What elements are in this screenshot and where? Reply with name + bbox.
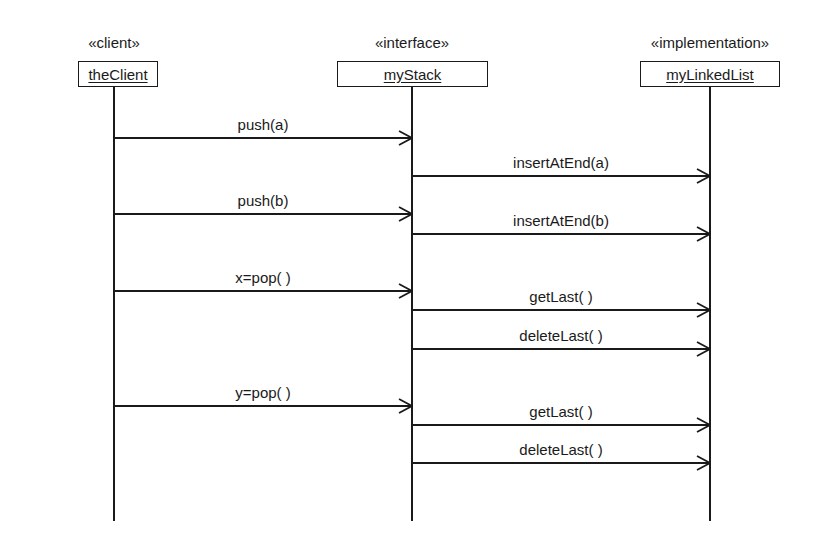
message-arrow <box>114 137 412 139</box>
participant-box: theClient <box>78 61 158 87</box>
participant-name: theClient <box>88 66 147 83</box>
lifeline <box>411 87 413 521</box>
message-arrow <box>114 213 412 215</box>
message-arrow <box>412 233 710 235</box>
participant-box: myStack <box>337 61 488 87</box>
message-label: push(b) <box>238 192 289 209</box>
message-label: getLast( ) <box>529 288 592 305</box>
message-arrow <box>114 405 412 407</box>
participant-box: myLinkedList <box>640 61 780 87</box>
message-arrow <box>412 462 710 464</box>
arrowhead-icon <box>695 455 711 471</box>
stereotype-label: «interface» <box>375 34 449 51</box>
arrowhead-icon <box>695 168 711 184</box>
message-label: insertAtEnd(a) <box>513 154 609 171</box>
arrowhead-icon <box>695 341 711 357</box>
message-arrow <box>412 424 710 426</box>
message-label: x=pop( ) <box>235 269 290 286</box>
stereotype-label: «client» <box>88 34 140 51</box>
arrowhead-icon <box>695 302 711 318</box>
message-arrow <box>412 309 710 311</box>
participant-name: myStack <box>384 66 442 83</box>
arrowhead-icon <box>397 283 413 299</box>
arrowhead-icon <box>397 130 413 146</box>
message-label: deleteLast( ) <box>519 441 602 458</box>
message-arrow <box>114 290 412 292</box>
arrowhead-icon <box>695 226 711 242</box>
arrowhead-icon <box>695 417 711 433</box>
message-arrow <box>412 348 710 350</box>
lifeline <box>113 87 115 521</box>
participant-name: myLinkedList <box>666 66 754 83</box>
arrowhead-icon <box>397 398 413 414</box>
message-label: getLast( ) <box>529 403 592 420</box>
message-label: deleteLast( ) <box>519 327 602 344</box>
stereotype-label: «implementation» <box>651 34 769 51</box>
message-label: push(a) <box>238 116 289 133</box>
message-arrow <box>412 175 710 177</box>
message-label: insertAtEnd(b) <box>513 212 609 229</box>
arrowhead-icon <box>397 206 413 222</box>
message-label: y=pop( ) <box>235 384 290 401</box>
